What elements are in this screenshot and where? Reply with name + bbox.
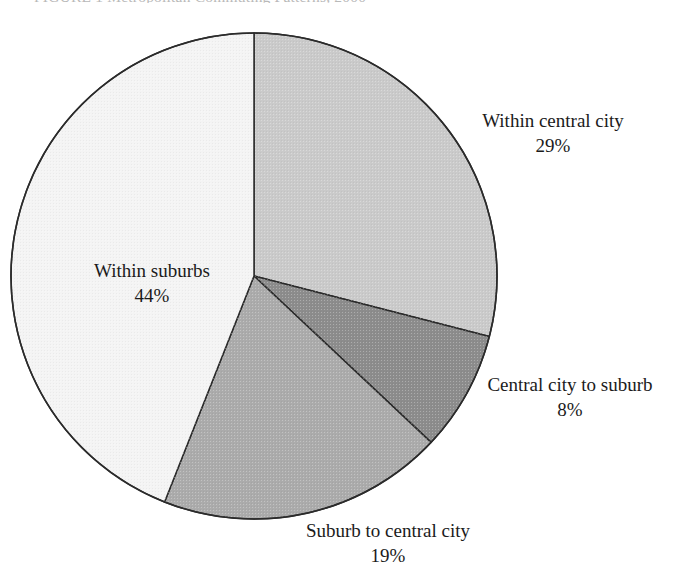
- pie-chart: Within central city 29% Central city to …: [0, 0, 673, 567]
- slice-label-text: Central city to suburb: [487, 374, 652, 395]
- slice-label-within-central-city: Within central city 29%: [446, 108, 660, 158]
- slice-label-central-city-to-suburb: Central city to suburb 8%: [470, 372, 670, 422]
- slice-label-value: 44%: [62, 283, 242, 308]
- slice-label-value: 19%: [278, 543, 498, 567]
- slice-label-value: 29%: [446, 133, 660, 158]
- slice-label-within-suburbs: Within suburbs 44%: [62, 258, 242, 308]
- slice-label-text: Within suburbs: [94, 260, 210, 281]
- slice-label-suburb-to-central-city: Suburb to central city 19%: [278, 518, 498, 567]
- slice-label-value: 8%: [470, 397, 670, 422]
- slice-label-text: Within central city: [482, 110, 624, 131]
- slice-label-text: Suburb to central city: [306, 520, 470, 541]
